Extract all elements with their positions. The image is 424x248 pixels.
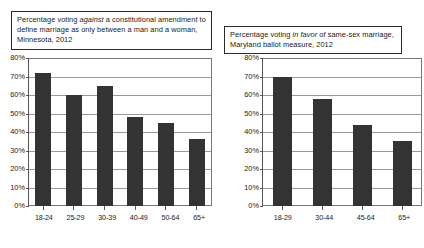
x-tick-label: 18-24 (35, 213, 53, 222)
bar-chart-maryland: 0%10%20%30%40%50%60%70%80% 18-2930-4445-… (236, 58, 422, 244)
y-axis-minnesota: 0%10%20%30%40%50%60%70%80% (2, 58, 28, 206)
chart-title-emphasis: against (80, 15, 104, 24)
y-tick-label: 80% (244, 54, 259, 62)
plot-area-maryland (262, 58, 422, 206)
x-axis-minnesota: 18-2425-2930-3940-4950-6465+ (28, 206, 212, 230)
x-tick-label: 30-44 (315, 213, 333, 222)
y-tick-label: 60% (244, 91, 259, 99)
x-tick-label: 45-64 (357, 213, 375, 222)
bar (158, 123, 174, 206)
x-tick-labels-maryland: 18-2930-4445-6465+ (262, 213, 422, 222)
bar (393, 141, 412, 206)
chart-title-emphasis: in favor (293, 30, 318, 39)
y-tick-label: 20% (244, 165, 259, 173)
x-tick-label: 30-39 (98, 213, 116, 222)
chart-title-text-before: Percentage voting (17, 15, 80, 24)
bar (35, 73, 51, 206)
x-tick-labels-minnesota: 18-2425-2930-3940-4950-6465+ (28, 213, 212, 222)
x-axis-tick (322, 206, 323, 210)
bar (313, 99, 332, 206)
y-tick-label: 10% (244, 184, 259, 192)
x-tick-label: 18-29 (274, 213, 292, 222)
bar (353, 125, 372, 206)
y-tick-label: 50% (10, 110, 25, 118)
x-tick-label: 50-64 (162, 213, 180, 222)
y-tick-label: 20% (10, 165, 25, 173)
chart-panel-minnesota: Percentage voting against a constitution… (0, 0, 214, 248)
chart-title-minnesota: Percentage voting against a constitution… (11, 11, 212, 50)
x-axis-maryland: 18-2930-4445-6465+ (262, 206, 422, 230)
x-axis-tick (73, 206, 74, 210)
y-tick-label: 70% (244, 73, 259, 81)
bar (66, 95, 82, 206)
y-tick-label: 40% (10, 128, 25, 136)
y-tick-label: 30% (10, 147, 25, 155)
chart-title-maryland: Percentage voting in favor of same-sex m… (224, 26, 402, 54)
bar-chart-minnesota: 0%10%20%30%40%50%60%70%80% 18-2425-2930-… (2, 58, 212, 244)
x-tick-marks-maryland (262, 206, 422, 210)
x-axis-tick (282, 206, 283, 210)
bar-series-maryland (262, 58, 422, 206)
y-tick-label: 0% (248, 202, 259, 210)
x-tick-label: 65+ (193, 213, 205, 222)
y-tick-label: 70% (10, 73, 25, 81)
y-tick-label: 50% (244, 110, 259, 118)
plot-area-minnesota (28, 58, 212, 206)
bar (97, 86, 113, 206)
x-axis-tick (362, 206, 363, 210)
x-tick-label: 40-49 (130, 213, 148, 222)
chart-title-text-before: Percentage voting (230, 30, 293, 39)
y-tick-label: 0% (14, 202, 25, 210)
bar-series-minnesota (28, 58, 212, 206)
x-tick-marks-minnesota (28, 206, 212, 210)
x-tick-label: 25-29 (67, 213, 85, 222)
y-tick-label: 30% (244, 147, 259, 155)
x-tick-label: 65+ (398, 213, 410, 222)
x-axis-tick (196, 206, 197, 210)
chart-panel-maryland: Percentage voting in favor of same-sex m… (218, 0, 424, 248)
x-axis-tick (43, 206, 44, 210)
bar (127, 117, 143, 206)
y-tick-label: 80% (10, 54, 25, 62)
y-axis-maryland: 0%10%20%30%40%50%60%70%80% (236, 58, 262, 206)
y-tick-label: 40% (244, 128, 259, 136)
x-axis-tick (165, 206, 166, 210)
y-tick-label: 60% (10, 91, 25, 99)
bar (189, 139, 205, 206)
dual-bar-chart-figure: Percentage voting against a constitution… (0, 0, 424, 248)
x-axis-tick (402, 206, 403, 210)
y-tick-label: 10% (10, 184, 25, 192)
x-axis-tick (104, 206, 105, 210)
x-axis-tick (135, 206, 136, 210)
bar (273, 77, 292, 207)
